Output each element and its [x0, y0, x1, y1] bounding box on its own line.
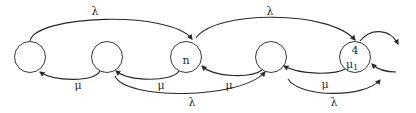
arrow-s5-out — [360, 32, 398, 44]
arrow-mu-s4-to-sn — [202, 66, 262, 76]
state-n: n — [171, 42, 202, 73]
arrow-in-to-s5 — [372, 64, 396, 72]
label-lambda-top-right: λ — [267, 5, 274, 18]
state-5-top-label: 4 — [352, 44, 359, 57]
state-1 — [15, 42, 46, 73]
label-mu-2: μ — [157, 79, 164, 92]
arrow-mu-s2-to-s1 — [40, 71, 100, 79]
state-5-bottom-label: μ1 — [346, 58, 358, 72]
arrow-lambda-s4-out — [288, 79, 380, 93]
state-n-label: n — [182, 54, 189, 67]
state-diagram: n 4 μ1 λ λ μ μ μ μ λ λ — [0, 0, 416, 113]
label-mu-1: μ — [74, 79, 81, 92]
arrow-lambda-s1-to-sn — [30, 19, 192, 41]
arrow-lambda-sn-to-s5 — [196, 17, 355, 40]
state-4 — [256, 42, 287, 73]
state-5: 4 μ1 — [340, 42, 371, 73]
label-mu-4: μ — [321, 78, 328, 91]
label-lambda-top-left: λ — [92, 5, 99, 18]
label-mu-3: μ — [225, 79, 232, 92]
arrow-mu-s5-to-s4 — [284, 66, 345, 73]
label-lambda-bottom-left: λ — [189, 96, 196, 109]
label-lambda-bottom-right: λ — [331, 96, 338, 109]
state-2 — [92, 42, 123, 73]
arrow-mu-sn-to-s2 — [116, 71, 179, 79]
